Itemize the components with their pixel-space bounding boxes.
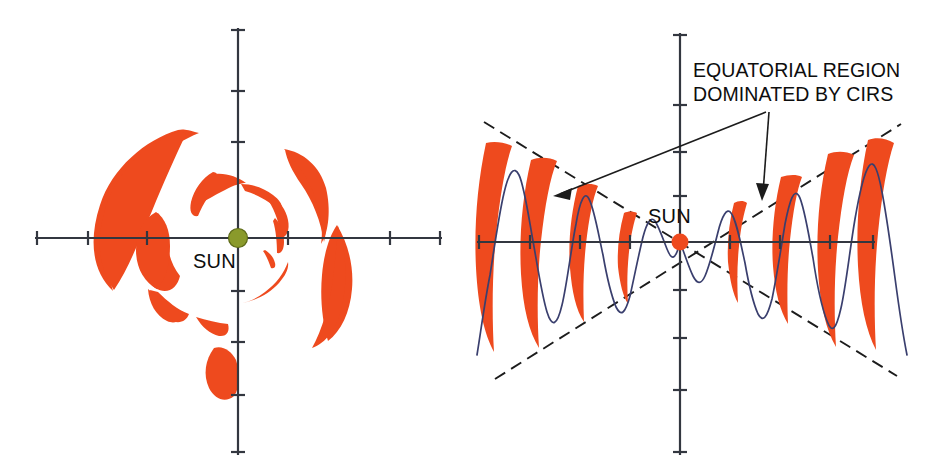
sun-label-right: SUN: [648, 205, 691, 227]
figure-canvas: SUN: [0, 0, 941, 475]
solar-wind-cir-figure: SUN: [0, 0, 941, 475]
sun-marker-left: [229, 229, 248, 248]
sun-label-left: SUN: [193, 250, 236, 272]
annotation-line-2: DOMINATED BY CIRS: [693, 83, 893, 105]
annotation-line-1: EQUATORIAL REGION: [693, 59, 900, 81]
sun-marker-right: [672, 234, 689, 251]
